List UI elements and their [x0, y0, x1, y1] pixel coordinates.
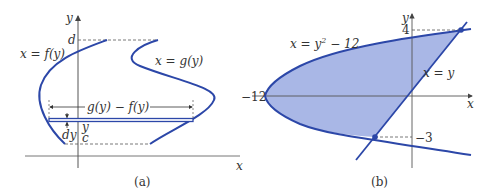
curve-f-label: x = f(y) [20, 47, 65, 61]
caption-a: (a) [134, 175, 151, 189]
intersection-upper [458, 27, 464, 33]
intersection-lower [372, 134, 378, 140]
strip [49, 119, 193, 122]
panel-a: y x d c x = f(y) x = g(y) g(y) − f(y) dy… [20, 11, 243, 189]
label-y-3: −3 [415, 131, 433, 145]
width-label: g(y) − f(y) [87, 100, 149, 114]
label-x-12: −12 [241, 90, 266, 104]
bound-d-label: d [68, 33, 76, 47]
x-axis-label: x [236, 159, 243, 173]
strip-y-label: y [81, 120, 89, 134]
line-label: x = y [423, 66, 454, 80]
x-axis-label: x [467, 97, 474, 111]
figure: y x d c x = f(y) x = g(y) g(y) − f(y) dy… [0, 0, 487, 192]
panel-b: y x 4 −3 −12 x = y x = y2 − 12 (b) [241, 11, 474, 189]
dy-label: dy [62, 128, 77, 142]
curve-g-label: x = g(y) [155, 54, 204, 68]
label-y4: 4 [402, 23, 410, 37]
y-axis-label: y [65, 11, 73, 25]
parabola-label: x = y2 − 12 [290, 36, 359, 51]
caption-b: (b) [371, 175, 388, 189]
